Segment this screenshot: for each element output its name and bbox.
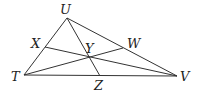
label-Z: Z xyxy=(93,78,104,93)
label-V: V xyxy=(180,69,191,84)
label-Y: Y xyxy=(85,41,95,56)
label-U: U xyxy=(60,2,72,17)
label-X: X xyxy=(30,36,41,51)
label-W: W xyxy=(127,36,142,51)
label-T: T xyxy=(11,69,21,84)
triangle-diagram: U T V X W Y Z xyxy=(0,0,201,96)
side-TV xyxy=(24,75,177,76)
cevian-TW xyxy=(24,48,123,75)
